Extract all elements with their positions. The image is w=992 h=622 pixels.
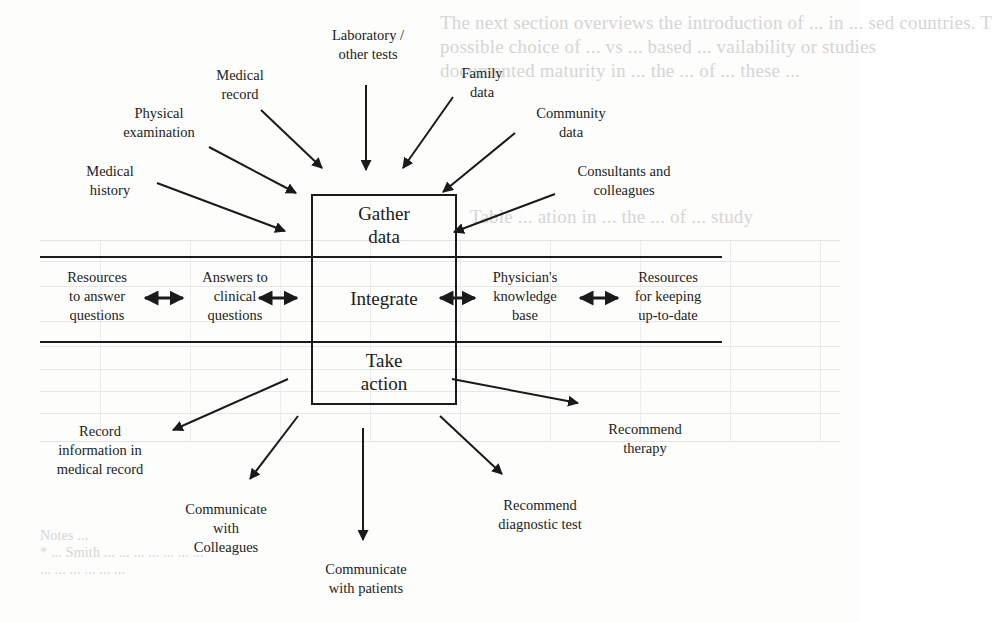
- arrow-community: [443, 133, 515, 192]
- arrow-record-info: [173, 379, 288, 430]
- resources-answer-questions: Resources to answer questions: [67, 268, 127, 325]
- input-laboratory: Laboratory / other tests: [332, 26, 404, 64]
- gather-data-label: Gather data: [358, 202, 410, 248]
- input-community: Community data: [536, 104, 605, 142]
- output-recommend-test: Recommend diagnostic test: [498, 496, 581, 534]
- output-communicate-patients: Communicate with patients: [325, 560, 406, 598]
- input-history: Medical history: [86, 162, 134, 200]
- arrow-history: [157, 183, 285, 231]
- physicians-knowledge-base: Physician's knowledge base: [493, 268, 558, 325]
- arrow-recommend-therapy: [452, 379, 578, 403]
- output-communicate-colleagues: Communicate with Colleagues: [185, 500, 266, 557]
- arrow-recommend-test: [440, 416, 502, 474]
- take-action-label: Take action: [361, 349, 407, 395]
- integrate-label: Integrate: [350, 287, 418, 310]
- arrow-consultants: [454, 194, 555, 232]
- input-consultants: Consultants and colleagues: [577, 162, 670, 200]
- answers-clinical-questions: Answers to clinical questions: [202, 268, 268, 325]
- input-physical: Physical examination: [123, 104, 195, 142]
- output-record-info: Record information in medical record: [57, 422, 144, 479]
- arrow-communicate-colleagues: [250, 416, 298, 479]
- output-recommend-therapy: Recommend therapy: [608, 420, 681, 458]
- input-medical-record: Medical record: [216, 66, 264, 104]
- arrow-medical-record: [261, 110, 322, 168]
- input-family: Family data: [461, 64, 502, 102]
- resources-keeping-up-to-date: Resources for keeping up-to-date: [635, 268, 701, 325]
- arrow-physical: [209, 147, 296, 193]
- arrow-family: [403, 97, 453, 168]
